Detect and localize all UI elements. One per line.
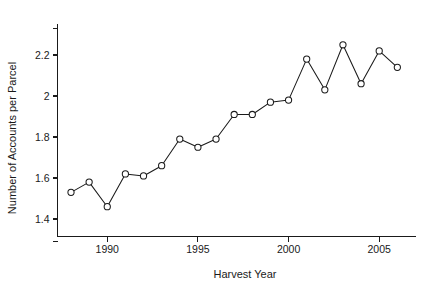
data-point-marker <box>304 56 310 62</box>
y-axis-title: Number of Accounts per Parcel <box>6 62 18 214</box>
data-point-marker <box>394 64 400 70</box>
data-point-marker <box>376 48 382 54</box>
data-point-marker <box>213 136 219 142</box>
data-point-marker <box>195 144 201 150</box>
series-line-accounts-per-parcel <box>71 45 397 207</box>
y-tick-label: 1.6 <box>35 172 50 184</box>
axis-ticks <box>53 28 380 241</box>
x-tick-label: 1995 <box>186 243 210 255</box>
data-point-marker <box>249 111 255 117</box>
x-tick-label: 2005 <box>368 243 392 255</box>
line-chart: 1.41.61.822.2 1990199520002005 Number of… <box>0 0 430 291</box>
x-tick-label: 2000 <box>277 243 301 255</box>
data-point-marker <box>340 42 346 48</box>
y-tick-label: 1.4 <box>35 213 50 225</box>
y-tick-label: 1.8 <box>35 131 50 143</box>
x-tick-label: 1990 <box>96 243 120 255</box>
data-point-marker <box>122 171 128 177</box>
y-axis-tick-labels: 1.41.61.822.2 <box>35 49 50 225</box>
data-series <box>71 45 397 207</box>
data-point-marker <box>140 173 146 179</box>
data-point-marker <box>285 97 291 103</box>
data-point-marker <box>177 136 183 142</box>
axes <box>58 24 417 237</box>
data-point-markers <box>68 42 401 210</box>
data-point-marker <box>86 179 92 185</box>
x-axis-tick-labels: 1990199520002005 <box>96 243 391 255</box>
y-tick-label: 2.2 <box>35 49 50 61</box>
data-point-marker <box>231 111 237 117</box>
data-point-marker <box>104 204 110 210</box>
data-point-marker <box>358 81 364 87</box>
chart-container: 1.41.61.822.2 1990199520002005 Number of… <box>0 0 430 291</box>
x-axis-title: Harvest Year <box>214 268 277 280</box>
data-point-marker <box>68 189 74 195</box>
data-point-marker <box>322 87 328 93</box>
data-point-marker <box>267 99 273 105</box>
y-tick-label: 2 <box>44 90 50 102</box>
data-point-marker <box>159 163 165 169</box>
